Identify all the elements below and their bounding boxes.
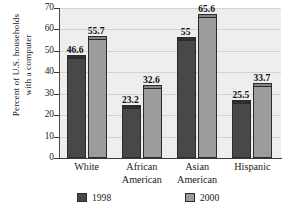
y-axis-tick-mark xyxy=(54,8,59,9)
category-label-hispanic: Hispanic xyxy=(225,160,280,173)
x-axis-line xyxy=(54,158,282,159)
y-axis-tick-label: 10 xyxy=(32,132,54,141)
category-label-line-2: American xyxy=(114,173,169,186)
bar-value-label: 65.6 xyxy=(191,4,222,14)
y-axis-tick-mark xyxy=(54,72,59,73)
category-label-line-1: African xyxy=(126,161,157,172)
bar-front-face xyxy=(232,103,251,158)
bar-value-label: 25.5 xyxy=(225,90,256,100)
y-axis-tick-label: 0 xyxy=(32,153,54,162)
y-axis-tick-mark xyxy=(54,115,59,116)
y-axis-tick-label: 40 xyxy=(32,67,54,76)
category-label-line-2: American xyxy=(170,173,225,186)
bar-hispanic-1998 xyxy=(232,100,251,158)
gridline xyxy=(60,8,281,9)
y-axis-tick-labels: 010203040506070 xyxy=(31,0,54,170)
category-label-line-1: White xyxy=(74,161,99,172)
bar-front-face xyxy=(198,17,217,158)
bar-white-1998 xyxy=(67,55,86,158)
y-axis-title-line-1: Percent of U.S. households xyxy=(11,0,23,145)
y-axis-tick-label: 70 xyxy=(32,3,54,12)
y-axis-tick-mark xyxy=(54,137,59,138)
y-axis-tick-mark xyxy=(54,51,59,52)
category-label-line-1: Asian xyxy=(185,161,209,172)
chart-legend: 19982000 xyxy=(59,192,280,206)
bar-value-label: 55 xyxy=(170,27,201,37)
legend-swatch-icon xyxy=(185,193,195,202)
legend-label: 1998 xyxy=(92,192,111,203)
bar-value-label: 32.6 xyxy=(136,75,167,85)
y-axis-tick-mark xyxy=(54,29,59,30)
bar-value-label: 46.6 xyxy=(60,45,91,55)
category-label-white: White xyxy=(59,160,114,173)
y-axis-tick-label: 60 xyxy=(32,24,54,33)
legend-item-2000[interactable]: 2000 xyxy=(185,192,219,203)
bar-value-label: 33.7 xyxy=(246,73,277,83)
bar-african-american-1998 xyxy=(122,105,141,158)
y-axis-tick-mark xyxy=(54,94,59,95)
bar-front-face xyxy=(88,39,107,158)
y-axis-tick-label: 50 xyxy=(32,46,54,55)
legend-label: 2000 xyxy=(200,192,219,203)
bar-front-face xyxy=(177,40,196,158)
y-axis-tick-mark xyxy=(54,158,59,159)
cutoff-caption xyxy=(70,209,280,215)
bar-front-face xyxy=(67,58,86,158)
bar-front-face xyxy=(122,108,141,158)
legend-swatch-icon xyxy=(77,193,87,202)
y-axis-tick-label: 20 xyxy=(32,110,54,119)
bar-value-label: 23.2 xyxy=(115,95,146,105)
legend-item-1998[interactable]: 1998 xyxy=(77,192,111,203)
bar-value-label: 55.7 xyxy=(81,26,112,36)
category-label-asian-american: AsianAmerican xyxy=(170,160,225,186)
category-label-african-american: AfricanAmerican xyxy=(114,160,169,186)
category-label-line-1: Hispanic xyxy=(234,161,270,172)
y-axis-tick-label: 30 xyxy=(32,89,54,98)
x-axis-category-labels: WhiteAfricanAmericanAsianAmericanHispani… xyxy=(59,160,280,192)
chart-figure: Percent of U.S. households with a comput… xyxy=(0,0,283,215)
bar-asian-american-1998 xyxy=(177,37,196,158)
